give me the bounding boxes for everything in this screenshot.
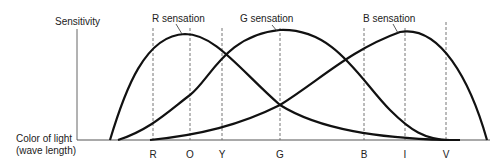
r-label-leader: [176, 24, 182, 34]
tick-v: V: [438, 149, 454, 160]
tick-b: B: [356, 149, 372, 160]
b-label-leader: [393, 24, 398, 33]
tick-r: R: [145, 149, 161, 160]
x-axis-label-line1: Color of light: [16, 133, 72, 144]
b-sensation-label: B sensation: [363, 13, 415, 24]
tick-g: G: [272, 149, 288, 160]
tick-o: O: [182, 149, 198, 160]
x-axis-label-line2: (wave length): [16, 145, 76, 156]
g-sensation-label: G sensation: [240, 13, 293, 24]
r-sensation-label: R sensation: [152, 13, 205, 24]
tick-i: I: [397, 149, 413, 160]
y-axis-label: Sensitivity: [55, 16, 100, 27]
tick-y: Y: [214, 149, 230, 160]
g-sensation-curve: [118, 30, 460, 140]
